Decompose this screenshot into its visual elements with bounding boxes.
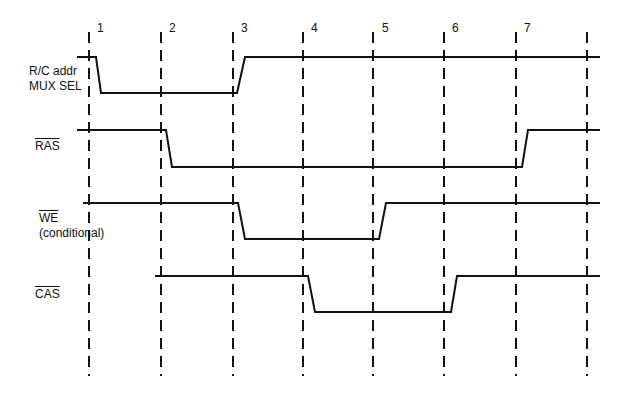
signal-label-mux-sel-line2: MUX SEL [29,79,82,94]
signal-label-we-text: WE [39,211,58,225]
marker-label-1: 1 [97,21,104,35]
signal-label-we: WE (conditional) [39,211,104,241]
signal-label-cas: CAS [35,287,60,302]
signal-waveforms [77,57,600,312]
signal-label-mux-sel-line1: R/C addr [29,64,82,79]
signal-label-mux-sel: R/C addr MUX SEL [29,64,82,94]
signal-label-we-qualifier: (conditional) [39,226,104,241]
waveform-cas [155,276,600,312]
waveform-mux-sel [77,57,600,93]
signal-label-cas-text: CAS [35,287,60,301]
marker-label-3: 3 [241,21,248,35]
marker-label-7: 7 [524,21,531,35]
waveform-ras [77,130,600,167]
signal-label-ras-text: RAS [35,139,60,153]
marker-label-4: 4 [311,21,318,35]
signal-label-ras: RAS [35,139,60,154]
marker-label-5: 5 [382,21,389,35]
timing-diagram [0,0,634,398]
marker-label-2: 2 [169,21,176,35]
marker-label-6: 6 [452,21,459,35]
